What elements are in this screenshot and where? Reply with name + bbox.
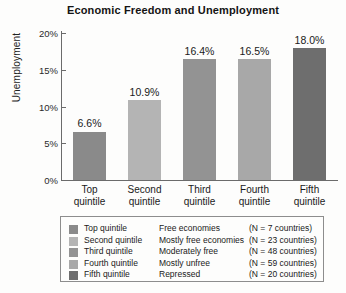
legend-color-swatch [69, 237, 78, 246]
bar-value-label: 18.0% [280, 34, 340, 46]
legend-description: Repressed [159, 269, 200, 279]
legend-country-count: (N = 48 countries) [249, 246, 317, 256]
bar-value-label: 6.6% [60, 117, 120, 129]
y-axis-tick-label: 5% [14, 138, 58, 149]
legend-row: Third quintileModerately free(N = 48 cou… [61, 246, 323, 258]
x-axis-tick-label-line: Fifth [280, 184, 340, 196]
x-axis-tick-label: Topquintile [60, 184, 120, 207]
legend-country-count: (N = 20 countries) [249, 269, 317, 279]
x-axis-tick-label: Thirdquintile [170, 184, 230, 207]
bar [73, 132, 106, 181]
x-axis-tick-label-line: quintile [225, 196, 285, 208]
legend-color-swatch [69, 271, 78, 280]
legend-quintile-label: Third quintile [84, 246, 133, 256]
x-axis-tick-label: Secondquintile [115, 184, 175, 207]
legend: Top quintileFree economies(N = 7 countri… [60, 216, 324, 282]
bar [293, 48, 326, 180]
legend-country-count: (N = 59 countries) [249, 258, 317, 268]
x-axis-tick-label-line: quintile [170, 196, 230, 208]
bar [238, 59, 271, 180]
legend-description: Free economies [159, 223, 220, 233]
y-axis-title: Unemployment [11, 8, 22, 128]
bar-value-label: 16.5% [225, 45, 285, 57]
x-axis-tick-label-line: Third [170, 184, 230, 196]
legend-quintile-label: Fifth quintile [84, 269, 130, 279]
legend-country-count: (N = 23 countries) [249, 235, 317, 245]
legend-row: Fifth quintileRepressed(N = 20 countries… [61, 269, 323, 281]
x-axis-tick-label-line: Fourth [225, 184, 285, 196]
legend-description: Moderately free [159, 246, 218, 256]
legend-row: Top quintileFree economies(N = 7 countri… [61, 223, 323, 235]
legend-description: Mostly unfree [159, 258, 210, 268]
bar-value-label: 16.4% [170, 45, 230, 57]
legend-quintile-label: Second quintile [84, 235, 142, 245]
x-axis-tick-label-line: quintile [60, 196, 120, 208]
legend-description: Mostly free economies [159, 235, 244, 245]
x-axis-tick-label: Fifthquintile [280, 184, 340, 207]
x-axis-line [61, 180, 338, 181]
legend-color-swatch [69, 225, 78, 234]
x-axis-tick-label-line: Second [115, 184, 175, 196]
legend-color-swatch [69, 248, 78, 257]
x-axis-tick-label-line: quintile [115, 196, 175, 208]
x-axis-tick-label-line: Top [60, 184, 120, 196]
legend-row: Second quintileMostly free economies(N =… [61, 235, 323, 247]
legend-quintile-label: Top quintile [84, 223, 127, 233]
x-axis-tick-label: Fourthquintile [225, 184, 285, 207]
bar [183, 59, 216, 180]
y-axis-tick-label: 0% [14, 175, 58, 186]
legend-quintile-label: Fourth quintile [84, 258, 138, 268]
x-axis-tick-label-line: quintile [280, 196, 340, 208]
legend-color-swatch [69, 260, 78, 269]
legend-row: Fourth quintileMostly unfree(N = 59 coun… [61, 258, 323, 270]
bar-value-label: 10.9% [115, 86, 175, 98]
legend-country-count: (N = 7 countries) [249, 223, 312, 233]
chart-figure: Economic Freedom and Unemployment 0%5%10… [0, 0, 346, 293]
bar [128, 100, 161, 180]
